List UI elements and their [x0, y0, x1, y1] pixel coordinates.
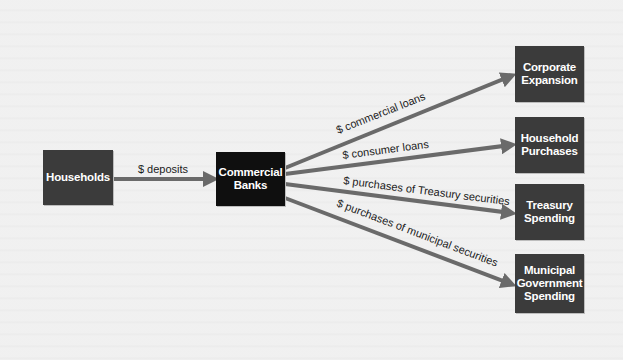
node-treasury-label-line1: Treasury — [524, 199, 575, 212]
node-banks-label-line1: Commercial — [219, 166, 283, 179]
node-households-label: Households — [46, 171, 110, 184]
node-corporate-expansion: Corporate Expansion — [515, 46, 584, 102]
node-municipal-label-line3: Spending — [517, 290, 583, 303]
node-treasury-label-line2: Spending — [524, 212, 575, 225]
arrow-commercial-loans — [285, 76, 511, 168]
edge-deposits: $ deposits — [113, 163, 213, 179]
diagram-canvas: $ deposits $ commercial loans $ consumer… — [0, 0, 623, 360]
arrow-municipal-securities — [285, 198, 511, 284]
node-banks-label-line2: Banks — [219, 179, 283, 192]
edge-commercial-loans: $ commercial loans — [285, 76, 511, 168]
node-treasury-spending: Treasury Spending — [515, 184, 584, 240]
node-corporate-label-line1: Corporate — [521, 61, 577, 74]
node-household-purchases-label-line2: Purchases — [521, 145, 579, 158]
node-households: Households — [43, 150, 113, 205]
node-household-purchases: Household Purchases — [515, 117, 584, 173]
node-commercial-banks: Commercial Banks — [216, 152, 285, 206]
node-household-purchases-label-line1: Household — [521, 132, 579, 145]
node-corporate-label-line2: Expansion — [521, 74, 577, 87]
edge-treasury-securities: $ purchases of Treasury securities — [285, 174, 511, 213]
edge-label-deposits: $ deposits — [138, 163, 189, 175]
node-municipal-government-spending: Municipal Government Spending — [515, 254, 584, 313]
node-municipal-label-line2: Government — [517, 277, 583, 290]
node-municipal-label-line1: Municipal — [517, 264, 583, 277]
